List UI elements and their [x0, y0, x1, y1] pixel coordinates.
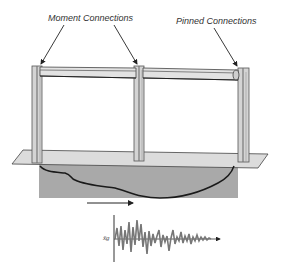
leader-moment-middle — [114, 25, 137, 64]
frame-diagram: Moment Connections Pinned Connections ẍg — [0, 0, 282, 272]
beam-left — [40, 67, 136, 78]
diagram-canvas — [0, 0, 282, 272]
column-left — [32, 66, 42, 163]
pinned-connections-label: Pinned Connections — [176, 16, 257, 26]
soil-block — [39, 163, 238, 198]
ground-acceleration-symbol: ẍg — [103, 234, 110, 242]
accelerogram-signal — [115, 220, 211, 254]
leader-moment-left — [41, 25, 64, 64]
leader-pinned — [214, 28, 237, 66]
beam-right — [143, 68, 239, 80]
moment-connections-label: Moment Connections — [48, 13, 133, 23]
column-right — [238, 68, 249, 162]
column-middle — [134, 66, 144, 161]
